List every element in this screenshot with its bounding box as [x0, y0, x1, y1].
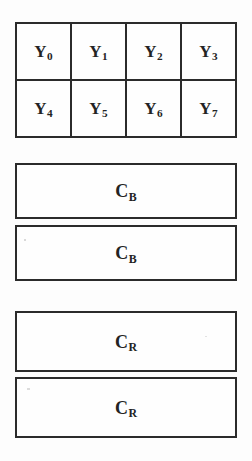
chroma-block-label: CB — [115, 182, 136, 200]
chroma-label-subscript: R — [128, 340, 137, 354]
chroma-label-base: C — [115, 243, 128, 263]
chroma-label-base: C — [115, 398, 128, 418]
chroma-block-label: CR — [115, 399, 137, 417]
luma-block-label: Y1 — [89, 43, 107, 60]
luma-block-cell: Y6 — [127, 81, 182, 138]
chroma-block-cr-1: CR — [15, 377, 237, 438]
luma-label-subscript: 6 — [157, 107, 163, 119]
luma-label-base: Y — [89, 99, 101, 118]
luma-block-label: Y0 — [34, 43, 52, 60]
luma-block-label: Y5 — [89, 100, 107, 117]
luma-label-base: Y — [199, 42, 211, 61]
chroma-block-label: CR — [115, 333, 137, 351]
luma-block-cell: Y7 — [182, 81, 237, 138]
luma-block-grid: Y0 Y1 Y2 Y3 Y4 Y5 Y6 Y7 — [15, 22, 237, 138]
chroma-block-label: CB — [115, 244, 136, 262]
chroma-block-cb-1: CB — [15, 225, 237, 281]
luma-label-subscript: 3 — [212, 50, 218, 62]
chroma-label-subscript: B — [129, 190, 137, 204]
chroma-block-cr-0: CR — [15, 311, 237, 372]
luma-label-base: Y — [144, 99, 156, 118]
luma-block-cell: Y3 — [182, 24, 237, 81]
luma-label-subscript: 5 — [102, 107, 108, 119]
luma-block-label: Y3 — [199, 43, 217, 60]
luma-block-cell: Y1 — [72, 24, 127, 81]
chroma-label-base: C — [115, 181, 128, 201]
luma-label-base: Y — [34, 99, 46, 118]
luma-block-cell: Y0 — [17, 24, 72, 81]
luma-block-label: Y2 — [144, 43, 162, 60]
luma-label-base: Y — [199, 99, 211, 118]
chroma-block-cb-0: CB — [15, 163, 237, 219]
luma-label-subscript: 2 — [157, 50, 163, 62]
luma-block-label: Y7 — [199, 100, 217, 117]
chroma-label-base: C — [115, 332, 128, 352]
chroma-label-subscript: R — [128, 406, 137, 420]
luma-label-base: Y — [34, 42, 46, 61]
luma-label-base: Y — [144, 42, 156, 61]
luma-label-base: Y — [89, 42, 101, 61]
ycbcr-block-diagram: Y0 Y1 Y2 Y3 Y4 Y5 Y6 Y7 CB CB CR — [0, 0, 252, 461]
luma-block-label: Y6 — [144, 100, 162, 117]
luma-label-subscript: 1 — [102, 50, 108, 62]
chroma-label-subscript: B — [129, 252, 137, 266]
luma-label-subscript: 4 — [47, 107, 53, 119]
luma-block-cell: Y5 — [72, 81, 127, 138]
luma-label-subscript: 7 — [212, 107, 218, 119]
luma-label-subscript: 0 — [47, 50, 53, 62]
luma-block-cell: Y2 — [127, 24, 182, 81]
luma-block-label: Y4 — [34, 100, 52, 117]
luma-block-cell: Y4 — [17, 81, 72, 138]
